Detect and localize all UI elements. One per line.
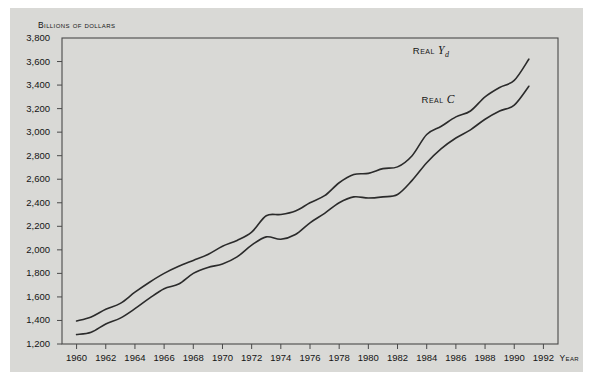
x-tick-label: 1992: [525, 352, 561, 363]
chart-plot-area: [10, 8, 583, 372]
data-series-lines: [77, 59, 529, 334]
y-tick-label: 2,200: [12, 220, 50, 231]
series-label: Real C: [422, 93, 455, 105]
plot-frame: [62, 38, 558, 344]
y-tick-label: 2,600: [12, 173, 50, 184]
y-tick-label: 2,000: [12, 244, 50, 255]
series-line: [77, 86, 529, 334]
figure-panel: Billions of dollars 3,8003,6003,4003,200…: [10, 8, 583, 372]
x-axis-title: Year: [559, 353, 579, 363]
series-line: [77, 59, 529, 321]
y-tick-label: 1,400: [12, 314, 50, 325]
y-tick-label: 1,800: [12, 267, 50, 278]
y-tick-label: 3,000: [12, 126, 50, 137]
y-tick-label: 3,800: [12, 32, 50, 43]
y-tick-label: 1,200: [12, 338, 50, 349]
series-label: Real Yd: [413, 44, 450, 59]
y-tick-label: 2,400: [12, 197, 50, 208]
y-tick-label: 3,400: [12, 79, 50, 90]
y-tick-label: 2,800: [12, 150, 50, 161]
y-tick-label: 3,600: [12, 56, 50, 67]
y-tick-label: 1,600: [12, 291, 50, 302]
y-tick-label: 3,200: [12, 103, 50, 114]
plot-frame-rect: [62, 38, 558, 344]
axis-ticks: [57, 62, 543, 349]
